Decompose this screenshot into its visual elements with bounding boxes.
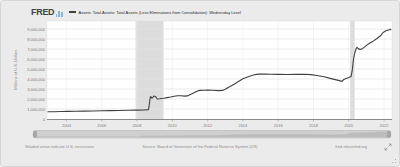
fred-chart-widget: FRED Assets: Total Assets: Total Assets … (0, 0, 400, 167)
chart-footer: Shaded areas indicate U.S. recessions So… (1, 143, 399, 153)
fred-link[interactable]: fred.stlouisfed.org (335, 144, 367, 149)
expand-icon[interactable] (384, 143, 392, 151)
bar-chart-icon (56, 10, 63, 17)
series-title: Assets: Total Assets: Total Assets (Less… (79, 10, 241, 15)
legend-line-swatch (69, 11, 76, 12)
fred-logo[interactable]: FRED (31, 8, 63, 17)
fred-logo-text: FRED (31, 8, 54, 17)
chart-header: FRED Assets: Total Assets: Total Assets … (31, 6, 241, 18)
series-legend: Assets: Total Assets: Total Assets (Less… (69, 10, 241, 15)
